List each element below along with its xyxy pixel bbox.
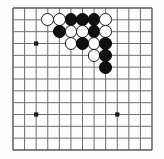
black-stone[interactable] xyxy=(76,37,89,50)
black-stone[interactable] xyxy=(99,37,112,50)
star-point xyxy=(34,41,38,45)
black-stone[interactable] xyxy=(99,61,112,74)
go-board-diagram xyxy=(0,0,164,159)
star-point xyxy=(34,112,38,116)
black-stone[interactable] xyxy=(99,49,112,62)
black-stone[interactable] xyxy=(53,25,66,38)
star-point xyxy=(115,112,119,116)
